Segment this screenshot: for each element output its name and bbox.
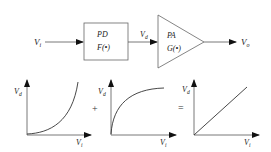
compressive-curve xyxy=(111,88,164,134)
pa-title: PA xyxy=(166,31,176,40)
x-axis-label: Vi xyxy=(76,138,83,148)
y-axis-label: Vd xyxy=(14,87,22,97)
mid-label: Vd xyxy=(140,30,148,40)
plus-operator: + xyxy=(92,103,98,114)
predistortion-diagram: Vi PD F(•) Vd PA G(•) Vo Vd Vi + Vd Vi = xyxy=(0,0,271,152)
graph-predistorter: Vd Vi xyxy=(14,80,91,148)
pd-title: PD xyxy=(96,30,108,39)
output-label: Vo xyxy=(241,37,250,48)
x-axis-label: Vi xyxy=(244,138,251,148)
graph-linearized: Vd Vi xyxy=(182,80,259,148)
y-axis-label: Vd xyxy=(98,87,106,97)
equals-operator: = xyxy=(178,102,184,113)
y-axis-label: Vd xyxy=(182,85,190,95)
pa-block xyxy=(158,15,204,68)
block-diagram: Vi PD F(•) Vd PA G(•) Vo xyxy=(34,15,250,68)
graph-amplifier: Vd Vi xyxy=(98,80,176,148)
pd-function: F(•) xyxy=(96,43,110,52)
pd-block xyxy=(84,23,128,60)
linear-curve xyxy=(194,87,247,135)
pa-function: G(•) xyxy=(167,44,181,53)
x-axis-label: Vi xyxy=(160,138,167,148)
input-label: Vi xyxy=(34,37,42,48)
expansive-curve xyxy=(27,82,78,134)
